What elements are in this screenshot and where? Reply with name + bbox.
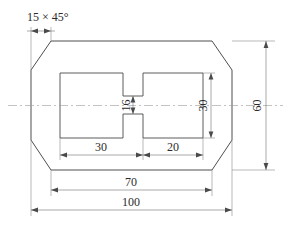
flat-width-arrow-left-icon xyxy=(51,188,58,193)
engineering-drawing-canvas: 15 × 45° 16 30 60 30 20 xyxy=(0,0,290,232)
flat-width-label: 70 xyxy=(125,175,137,189)
cutout-right-span-label: 20 xyxy=(167,140,179,154)
overall-width-arrow-left-icon xyxy=(31,208,38,213)
cutout-height-arrow-top-icon xyxy=(209,73,214,80)
overall-height-arrow-top-icon xyxy=(264,41,269,48)
overall-height-arrow-bottom-icon xyxy=(264,163,269,170)
cutout-left-span-label: 30 xyxy=(95,140,107,154)
chamfer-arrow-right-icon xyxy=(44,29,51,34)
cutout-height-arrow-bottom-icon xyxy=(209,132,214,139)
cutout-right-span-arrow-right-icon xyxy=(196,153,203,158)
chamfer-arrow-left-icon xyxy=(31,29,38,34)
overall-width-label: 100 xyxy=(122,195,140,209)
cutout-left-span-arrow-left-icon xyxy=(60,153,67,158)
drawing-svg: 15 × 45° 16 30 60 30 20 xyxy=(0,0,290,232)
overall-height-label: 60 xyxy=(250,100,264,112)
cutout-height-label: 30 xyxy=(196,100,210,112)
flat-width-arrow-right-icon xyxy=(205,188,212,193)
cutout-right-span-arrow-left-icon xyxy=(143,153,150,158)
web-height-label: 16 xyxy=(119,100,133,112)
overall-width-arrow-right-icon xyxy=(225,208,232,213)
chamfer-note-label: 15 × 45° xyxy=(27,10,69,24)
cutout-left-span-arrow-right-icon xyxy=(136,153,143,158)
